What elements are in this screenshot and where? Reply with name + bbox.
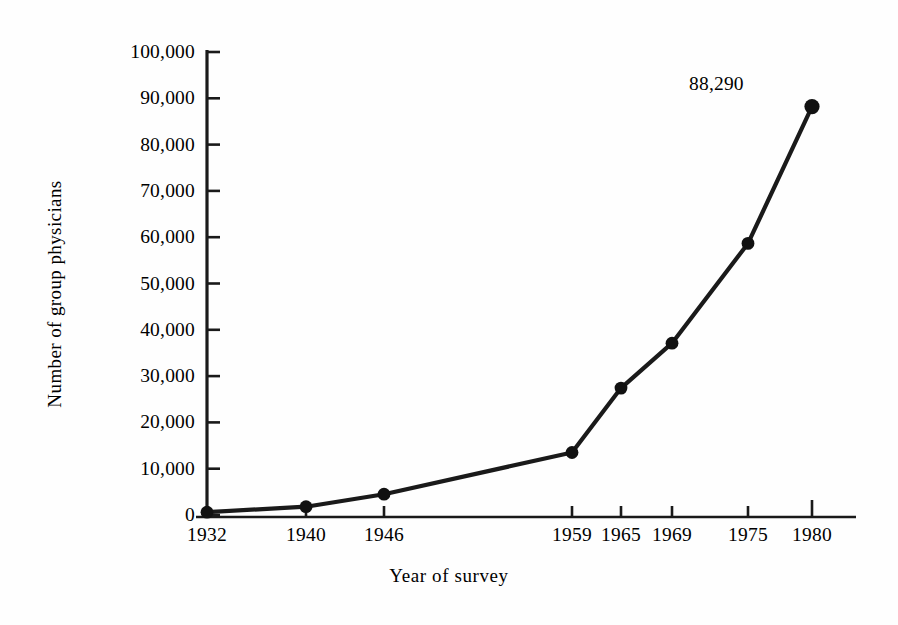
chart-figure: 0 10,000 20,000 30,000 40,000 50,000 60,… <box>0 0 898 625</box>
data-point-1940 <box>300 500 313 513</box>
y-tick-label-80000: 80,000 <box>60 134 195 156</box>
data-point-1980 <box>804 99 819 114</box>
x-axis-title: Year of survey <box>0 565 898 587</box>
y-tick-label-0: 0 <box>60 504 195 526</box>
y-tick-label-20000: 20,000 <box>60 411 195 433</box>
data-point-1969 <box>666 337 679 350</box>
y-tick-label-60000: 60,000 <box>60 226 195 248</box>
y-axis-title: Number of group physicians <box>44 144 66 444</box>
y-tick-marks <box>207 52 220 515</box>
data-point-1959 <box>566 446 579 459</box>
x-tick-label-1946: 1946 <box>334 524 434 546</box>
y-tick-label-10000: 10,000 <box>60 458 195 480</box>
data-point-1946 <box>378 488 391 501</box>
y-tick-label-70000: 70,000 <box>60 180 195 202</box>
data-point-1965 <box>615 382 628 395</box>
y-tick-label-100000: 100,000 <box>60 41 195 63</box>
y-tick-label-50000: 50,000 <box>60 273 195 295</box>
y-tick-label-30000: 30,000 <box>60 365 195 387</box>
data-point-markers <box>201 99 820 519</box>
x-tick-label-1980: 1980 <box>762 524 862 546</box>
data-line-group-physicians <box>207 107 812 513</box>
data-label-88290: 88,290 <box>689 73 744 95</box>
data-point-1932 <box>201 506 214 519</box>
data-point-1975 <box>742 237 755 250</box>
y-tick-label-90000: 90,000 <box>60 87 195 109</box>
x-tick-label-1932: 1932 <box>157 524 257 546</box>
y-tick-label-40000: 40,000 <box>60 319 195 341</box>
